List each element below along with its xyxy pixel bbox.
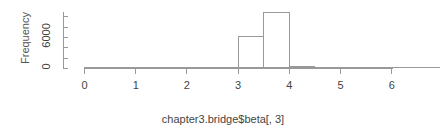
- y-axis-tick-label: 6000: [40, 15, 52, 55]
- x-axis-tick-label: 5: [321, 79, 361, 91]
- histogram-bar: [264, 13, 290, 67]
- histogram-bar: [289, 67, 315, 68]
- x-axis-tick-label: 6: [372, 79, 412, 91]
- x-axis-title: chapter3.bridge$beta[, 3]: [0, 113, 446, 125]
- x-axis: [84, 67, 440, 74]
- x-axis-tick-label: 3: [218, 79, 258, 91]
- y-axis: [64, 12, 68, 69]
- histogram-bar: [238, 37, 264, 67]
- x-axis-tick-label: 0: [65, 79, 105, 91]
- y-axis-title: Frequency: [19, 3, 31, 73]
- histogram-plot: Frequency 06000 0123456 chapter3.bridge$…: [0, 0, 446, 134]
- histogram-bars: [238, 13, 315, 68]
- x-axis-tick-label: 4: [269, 79, 309, 91]
- x-axis-tick-label: 2: [167, 79, 207, 91]
- x-axis-tick-label: 1: [116, 79, 156, 91]
